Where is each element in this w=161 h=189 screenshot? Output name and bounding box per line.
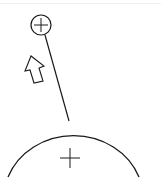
- large-body: [8, 136, 139, 177]
- charge-diagram: [0, 0, 161, 189]
- suspension-thread: [45, 35, 69, 121]
- plus-icon: [34, 18, 48, 32]
- plus-icon: [60, 148, 80, 168]
- large-body-arc: [8, 136, 139, 177]
- arrow-icon: [25, 56, 44, 83]
- small-charge: [31, 15, 51, 35]
